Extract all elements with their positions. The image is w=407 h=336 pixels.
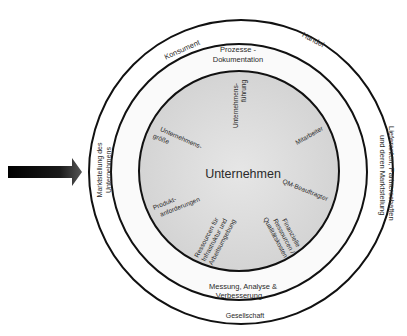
label-marktstellung-line1: Marktstellung des	[96, 142, 104, 197]
label-prozesse-line2: Dokumentation	[213, 55, 263, 64]
label-marktstellung-line2: Unternehmens	[105, 147, 112, 193]
company-environment-diagram: Konsument Handel Lieferanten, Partnersch…	[0, 0, 407, 336]
label-lieferanten-line2: und deren Marktstellung	[378, 135, 387, 215]
factor-unternehmensfuehrung-line2: führung	[240, 80, 248, 102]
factor-unternehmensfuehrung-line1: Unternehmens-	[232, 83, 239, 128]
center-label-unternehmen: Unternehmen	[205, 167, 281, 181]
label-lieferanten-line1: Lieferanten, Partnerschaften	[387, 126, 396, 221]
label-prozesse-line1: Prozesse -	[220, 45, 256, 54]
label-gesellschaft: Gesellschaft	[226, 312, 265, 319]
label-messung-line1: Messung, Analyse &	[209, 282, 277, 291]
input-arrow	[8, 158, 82, 186]
label-messung-line2: Verbesserung	[216, 291, 262, 300]
